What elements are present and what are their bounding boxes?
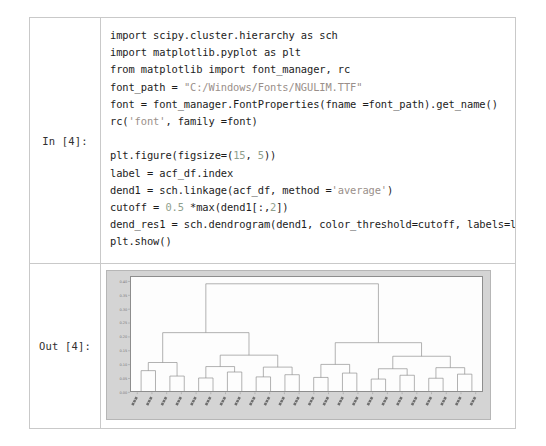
leaf-label-glyph <box>237 397 240 400</box>
notebook-cell-table: In [4]: import scipy.cluster.hierarchy a… <box>29 17 516 429</box>
leaf-label-glyph <box>162 399 165 402</box>
code-line <box>110 130 515 147</box>
leaf-label-glyph <box>427 399 430 402</box>
x-axis-leaf-label <box>337 397 344 406</box>
leaf-label-glyph <box>473 397 476 400</box>
code-editor[interactable]: import scipy.cluster.hierarchy as schimp… <box>101 18 515 251</box>
y-axis-tick-label: 0.10 <box>119 363 128 367</box>
output-prompt-gutter: Out [4]: <box>30 264 101 428</box>
code-token: cutoff = <box>110 201 165 213</box>
leaf-label-glyph <box>134 397 137 400</box>
leaf-label-glyph <box>440 402 443 405</box>
notebook-input-row: In [4]: import scipy.cluster.hierarchy a… <box>30 18 515 263</box>
leaf-label-glyph <box>264 402 267 405</box>
code-line: plt.figure(figsize=(15, 5)) <box>110 147 515 164</box>
input-prompt-label: In [4]: <box>42 135 88 147</box>
leaf-label-glyph <box>234 402 237 405</box>
leaf-label-glyph <box>278 402 281 405</box>
x-axis-leaf-label <box>411 397 418 406</box>
code-line: dend1 = sch.linkage(acf_df, method ='ave… <box>110 182 515 199</box>
leaf-label-glyph <box>146 402 149 405</box>
x-axis-leaf-label <box>175 397 182 406</box>
leaf-label-glyph <box>205 402 208 405</box>
leaf-label-glyph <box>149 397 152 400</box>
y-axis-tick-label: 0.25 <box>119 321 127 325</box>
output-cell-body: 0.000.050.100.150.200.250.300.350.40 <box>101 264 515 428</box>
code-token: plt.show() <box>110 235 172 247</box>
code-line: font_path = "C:/Windows/Fonts/NGULIM.TTF… <box>110 79 515 96</box>
code-token: plt.figure(figsize=( <box>110 149 233 161</box>
code-token: from matplotlib import font_manager, rc <box>110 63 350 75</box>
code-line: plt.show() <box>110 233 515 250</box>
x-axis-leaf-label <box>323 397 330 406</box>
leaf-label-glyph <box>442 399 445 402</box>
x-axis-leaf-label <box>205 397 212 406</box>
output-prompt-label: Out [4]: <box>39 340 91 352</box>
x-axis-leaf-label <box>426 397 433 406</box>
leaf-label-glyph <box>370 397 373 400</box>
leaf-label-glyph <box>308 402 311 405</box>
leaf-label-glyph <box>457 399 460 402</box>
leaf-label-glyph <box>267 397 270 400</box>
leaf-label-glyph <box>323 402 326 405</box>
matplotlib-figure: 0.000.050.100.150.200.250.300.350.40 <box>106 270 491 420</box>
code-token: 15 <box>233 149 245 161</box>
x-axis-leaf-label <box>234 397 241 406</box>
leaf-label-glyph <box>311 397 314 400</box>
leaf-label-glyph <box>399 397 402 400</box>
leaf-label-glyph <box>175 402 178 405</box>
leaf-label-glyph <box>455 402 458 405</box>
code-line: import matplotlib.pyplot as plt <box>110 44 515 61</box>
leaf-label-glyph <box>381 402 384 405</box>
leaf-label-glyph <box>280 399 283 402</box>
leaf-label-glyph <box>396 402 399 405</box>
x-axis-leaf-label <box>470 397 477 406</box>
leaf-label-glyph <box>281 397 284 400</box>
code-token: font_path = <box>110 81 184 93</box>
x-axis-leaf-label <box>455 397 462 406</box>
code-line: font = font_manager.FontProperties(fname… <box>110 96 515 113</box>
leaf-label-glyph <box>293 402 296 405</box>
code-cell-body[interactable]: import scipy.cluster.hierarchy as schimp… <box>101 18 515 263</box>
leaf-label-glyph <box>133 399 136 402</box>
x-axis-leaf-label <box>146 397 153 406</box>
screenshot-root: In [4]: import scipy.cluster.hierarchy a… <box>0 0 546 446</box>
code-token: , <box>245 149 257 161</box>
x-axis-leaf-label <box>161 397 168 406</box>
leaf-label-glyph <box>383 399 386 402</box>
x-axis-leaf-label <box>396 397 403 406</box>
leaf-label-glyph <box>178 397 181 400</box>
leaf-label-glyph <box>426 402 429 405</box>
leaf-label-glyph <box>251 399 254 402</box>
x-axis-leaf-label <box>264 397 271 406</box>
leaf-label-glyph <box>164 397 167 400</box>
leaf-label-glyph <box>384 397 387 400</box>
leaf-label-glyph <box>411 402 414 405</box>
code-token: import scipy.cluster.hierarchy as sch <box>110 29 338 41</box>
leaf-label-glyph <box>265 399 268 402</box>
y-axis-tick-label: 0.40 <box>119 280 128 284</box>
code-token: dend_res1 = sch.dendrogram(dend1, color_… <box>110 218 515 230</box>
y-axis-tick-label: 0.30 <box>119 308 128 312</box>
x-axis-leaf-label <box>278 397 285 406</box>
leaf-label-glyph <box>223 397 226 400</box>
code-token: "C:/Windows/Fonts/NGULIM.TTF" <box>184 81 363 93</box>
leaf-label-glyph <box>443 397 446 400</box>
y-axis-tick-label: 0.00 <box>119 391 128 395</box>
leaf-label-glyph <box>296 397 299 400</box>
leaf-label-glyph <box>190 402 193 405</box>
code-line: label = acf_df.index <box>110 165 515 182</box>
code-line: rc('font', family =font) <box>110 113 515 130</box>
x-axis-leaf-label <box>381 397 388 406</box>
code-line: dend_res1 = sch.dendrogram(dend1, color_… <box>110 216 515 233</box>
code-token: ) <box>387 184 393 196</box>
x-axis-leaf-label <box>367 397 374 406</box>
y-axis-tick-label: 0.15 <box>119 349 127 353</box>
leaf-label-glyph <box>252 397 255 400</box>
code-token: import matplotlib.pyplot as plt <box>110 46 301 58</box>
leaf-label-glyph <box>309 399 312 402</box>
leaf-label-glyph <box>414 397 417 400</box>
code-token: 'average' <box>332 184 387 196</box>
code-token: 'font' <box>128 115 165 127</box>
x-axis-leaf-label <box>131 397 138 406</box>
